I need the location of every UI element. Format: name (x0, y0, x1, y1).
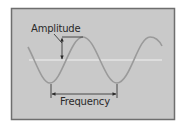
frequency-label: Frequency (60, 97, 110, 107)
wave-diagram (0, 0, 185, 129)
amplitude-label: Amplitude (31, 24, 80, 34)
